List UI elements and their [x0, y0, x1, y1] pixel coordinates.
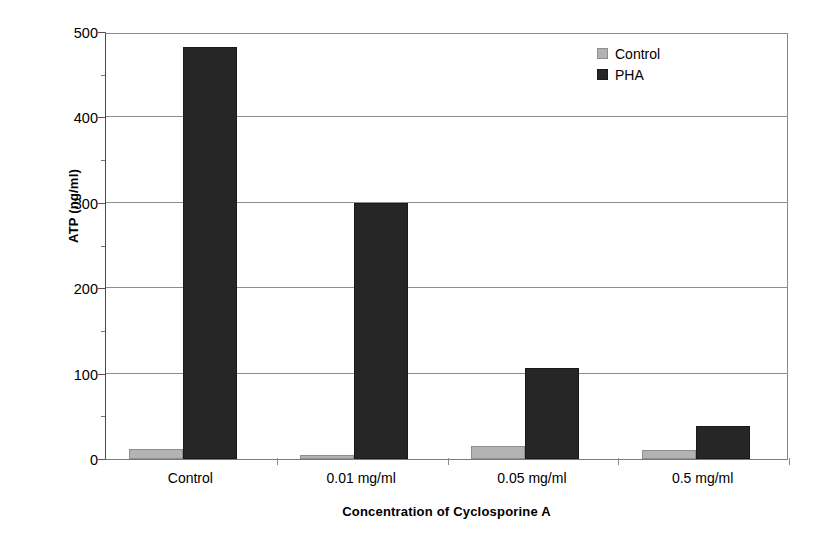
- legend-item: Control: [597, 44, 717, 63]
- x-axis-tick-label: 0.05 mg/ml: [447, 470, 618, 486]
- x-axis-tick-label: 0.5 mg/ml: [617, 470, 788, 486]
- y-axis-tick-label: 0: [34, 453, 98, 467]
- bar-pha: [354, 203, 408, 459]
- x-axis-tick-label: Control: [105, 470, 276, 486]
- bar-control: [642, 450, 696, 459]
- x-axis-title: Concentration of Cyclosporine A: [105, 504, 788, 519]
- y-axis-tick-label: 500: [34, 26, 98, 40]
- y-axis-tick-labels: 0100200300400500: [26, 33, 98, 460]
- x-axis-category-separator: [618, 458, 619, 465]
- legend-item: PHA: [597, 65, 717, 84]
- bar-control: [471, 446, 525, 459]
- bar-control: [300, 455, 354, 459]
- legend-label: Control: [615, 47, 660, 61]
- bar-pha: [183, 47, 237, 459]
- y-axis-tick-label: 400: [34, 111, 98, 125]
- chart-legend: ControlPHA: [597, 44, 717, 86]
- x-axis-tick-labels: Control0.01 mg/ml0.05 mg/ml0.5 mg/ml: [105, 470, 788, 492]
- bar-chart: ATP (ng/ml) 0100200300400500 Control0.01…: [0, 0, 816, 548]
- bar-group: [448, 34, 619, 459]
- legend-label: PHA: [615, 68, 644, 82]
- plot-area: [105, 33, 788, 460]
- bar-pha: [525, 368, 579, 459]
- legend-swatch-icon: [597, 48, 608, 59]
- y-axis-tick-label: 100: [34, 368, 98, 382]
- y-axis-tick-label: 200: [34, 282, 98, 296]
- legend-swatch-icon: [597, 69, 608, 80]
- x-axis-category-separator: [448, 458, 449, 465]
- x-axis-tick-label: 0.01 mg/ml: [276, 470, 447, 486]
- x-axis-category-separator: [789, 458, 790, 465]
- bar-pha: [696, 426, 750, 459]
- y-axis-tick-label: 300: [34, 197, 98, 211]
- bar-group: [277, 34, 448, 459]
- bar-control: [129, 449, 183, 459]
- bar-group: [618, 34, 789, 459]
- bar-group: [106, 34, 277, 459]
- x-axis-category-separator: [277, 458, 278, 465]
